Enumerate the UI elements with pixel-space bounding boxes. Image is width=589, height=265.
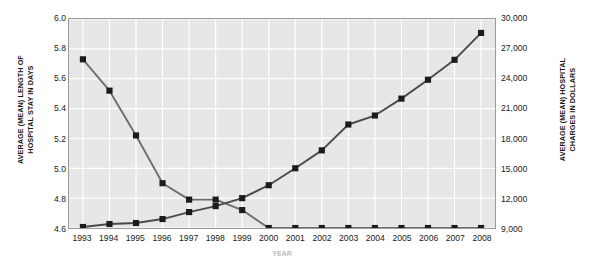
plot-svg [69,19,495,228]
data-point-marker [266,182,272,188]
data-point-marker [213,203,219,209]
data-point-marker [159,180,165,186]
x-axis-tick: 1998 [206,233,225,243]
data-point-marker [266,225,272,228]
data-point-marker [398,96,404,102]
x-axis-tick: 2000 [259,233,278,243]
x-axis-tick: 2003 [339,233,358,243]
y-axis-left-tick: 5.0 [54,164,66,174]
data-point-marker [106,88,112,94]
x-axis-tick: 2007 [446,233,465,243]
data-point-marker [133,132,139,138]
data-point-marker [292,225,298,228]
data-point-marker [159,216,165,222]
y-axis-right-tick: 18,000 [501,134,527,144]
chart-container: AVERAGE (MEAN) LENGTH OF HOSPITAL STAY I… [0,0,589,265]
data-point-marker [451,225,457,228]
y-axis-right-tick: 9,000 [501,224,523,234]
x-axis-tick: 1997 [179,233,198,243]
y-axis-left-tick: 5.8 [54,43,66,53]
data-point-marker [239,207,245,213]
x-axis-tick: 1999 [232,233,251,243]
data-point-marker [372,225,378,228]
data-point-marker [478,225,484,228]
y-axis-left-tick: 5.4 [54,103,66,113]
x-axis-tick: 1994 [99,233,118,243]
plot-area [68,18,496,229]
x-axis-tick: 2005 [392,233,411,243]
data-point-marker [372,112,378,118]
y-axis-left-tick: 5.2 [54,134,66,144]
y-axis-left-tick: 6.0 [54,13,66,23]
y-axis-right-tick: 27,000 [501,43,527,53]
data-point-marker [398,225,404,228]
data-point-marker [478,30,484,36]
y-axis-right-tick: 30,000 [501,13,527,23]
data-point-marker [319,147,325,153]
x-axis-title: YEAR [68,250,496,258]
y-axis-left-title: AVERAGE (MEAN) LENGTH OF HOSPITAL STAY I… [16,40,35,180]
x-axis-tick: 2002 [312,233,331,243]
data-point-marker [425,77,431,83]
x-axis-labels: 1993199419951996199719981999200020012002… [68,233,496,247]
x-axis-tick: 2008 [472,233,491,243]
y-axis-right-tick: 24,000 [501,73,527,83]
data-point-marker [451,57,457,63]
data-point-marker [345,225,351,228]
data-point-marker [186,209,192,215]
y-axis-right-tick: 15,000 [501,164,527,174]
x-axis-tick: 2004 [366,233,385,243]
data-point-marker [213,197,219,203]
data-point-marker [319,225,325,228]
x-axis-tick: 2006 [419,233,438,243]
x-axis-tick: 1996 [152,233,171,243]
data-point-marker [292,165,298,171]
data-point-marker [239,195,245,201]
y-axis-left-tick: 4.8 [54,194,66,204]
y-axis-right-tick: 12,000 [501,194,527,204]
data-point-marker [425,225,431,228]
y-axis-right-title: AVERAGE (MEAN) HOSPITAL CHARGES IN DOLLA… [558,40,577,180]
data-point-marker [80,56,86,62]
data-point-marker [133,220,139,226]
x-axis-tick: 2001 [286,233,305,243]
y-axis-left-tick: 5.6 [54,73,66,83]
data-point-marker [345,121,351,127]
data-point-marker [106,221,112,227]
y-axis-left-tick: 4.6 [54,224,66,234]
x-axis-tick: 1993 [72,233,91,243]
data-point-marker [186,197,192,203]
y-axis-right-tick: 21,000 [501,103,527,113]
data-point-marker [80,224,86,228]
x-axis-tick: 1995 [126,233,145,243]
